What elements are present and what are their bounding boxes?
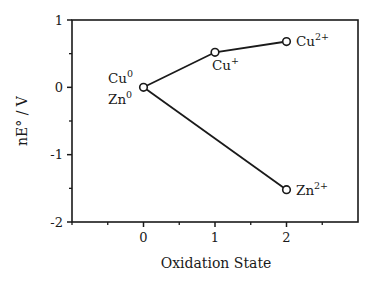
series-line-zinc bbox=[144, 87, 287, 189]
x-axis-title: Oxidation State bbox=[161, 255, 272, 271]
label-cu2: Cu2+ bbox=[296, 31, 329, 49]
data-point-marker bbox=[283, 38, 291, 46]
x-tick-label: 1 bbox=[211, 230, 219, 245]
x-tick-label: 2 bbox=[282, 230, 290, 245]
point-labels: Cu0 Zn0 Cu+ Cu2+ Zn2+ bbox=[108, 31, 329, 198]
y-tick-label: -2 bbox=[50, 215, 63, 230]
y-tick-label: 1 bbox=[55, 13, 63, 28]
frost-diagram: 10-1-2 012 nE° / V Oxidation State Cu0 Z… bbox=[0, 0, 378, 284]
y-tick-label: -1 bbox=[50, 147, 63, 162]
label-zn2: Zn2+ bbox=[296, 180, 328, 198]
data-point-marker bbox=[140, 84, 148, 92]
x-axis: 012 bbox=[72, 222, 322, 245]
y-axis-title: nE° / V bbox=[14, 95, 30, 146]
y-axis: 10-1-2 bbox=[50, 13, 72, 230]
y-tick-label: 0 bbox=[55, 80, 63, 95]
label-zn0: Zn0 bbox=[108, 89, 132, 107]
x-tick-label: 0 bbox=[139, 230, 147, 245]
data-point-marker bbox=[211, 49, 219, 57]
label-cu1: Cu+ bbox=[212, 55, 239, 73]
label-cu0: Cu0 bbox=[108, 68, 133, 86]
data-point-marker bbox=[283, 186, 291, 194]
